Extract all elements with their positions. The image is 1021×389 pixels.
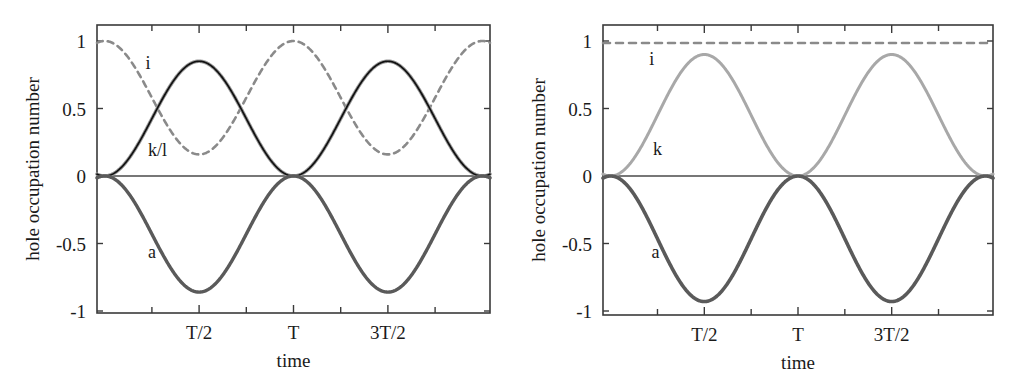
y-tick-label: 0 <box>583 166 593 187</box>
x-tick-label: T <box>288 322 300 343</box>
chart-svg-right: T/2T3T/210.50-0.5-1ikatimehole occupatio… <box>510 0 1021 389</box>
y-axis-title: hole occupation number <box>22 77 43 261</box>
y-axis-title: hole occupation number <box>528 78 549 262</box>
x-tick-label: 3T/2 <box>874 324 910 345</box>
curve-label-k-l: k/l <box>148 140 167 160</box>
x-axis-title: time <box>781 352 815 373</box>
axis-frame <box>97 25 490 313</box>
y-tick-label: -0.5 <box>562 234 592 255</box>
y-tick-label: -1 <box>576 301 592 322</box>
y-tick-label: 0.5 <box>568 99 592 120</box>
x-tick-label: T <box>792 324 804 345</box>
x-tick-label: T/2 <box>691 324 717 345</box>
y-tick-label: 1 <box>77 31 87 52</box>
curve-label-k: k <box>653 139 662 159</box>
curve-i <box>97 41 490 154</box>
curve-label-i: i <box>146 53 151 73</box>
y-tick-label: 0.5 <box>62 99 86 120</box>
figure-container: T/2T3T/210.50-0.5-1ik/latimehole occupat… <box>0 0 1021 389</box>
x-tick-label: T/2 <box>186 322 212 343</box>
y-tick-label: 1 <box>583 31 593 52</box>
y-tick-label: -1 <box>70 301 86 322</box>
x-axis-title: time <box>277 350 311 371</box>
curve-a <box>97 176 490 292</box>
chart-panel-left: T/2T3T/210.50-0.5-1ik/latimehole occupat… <box>0 0 510 389</box>
y-tick-label: 0 <box>77 166 87 187</box>
y-tick-label: -0.5 <box>56 234 86 255</box>
x-tick-label: 3T/2 <box>370 322 406 343</box>
chart-svg-left: T/2T3T/210.50-0.5-1ik/latimehole occupat… <box>0 0 510 389</box>
curve-label-a: a <box>148 242 156 262</box>
curve-a <box>603 176 993 302</box>
curve-label-a: a <box>652 242 660 262</box>
chart-panel-right: T/2T3T/210.50-0.5-1ikatimehole occupatio… <box>510 0 1021 389</box>
curve-label-i: i <box>649 49 654 69</box>
axis-frame <box>603 25 993 315</box>
